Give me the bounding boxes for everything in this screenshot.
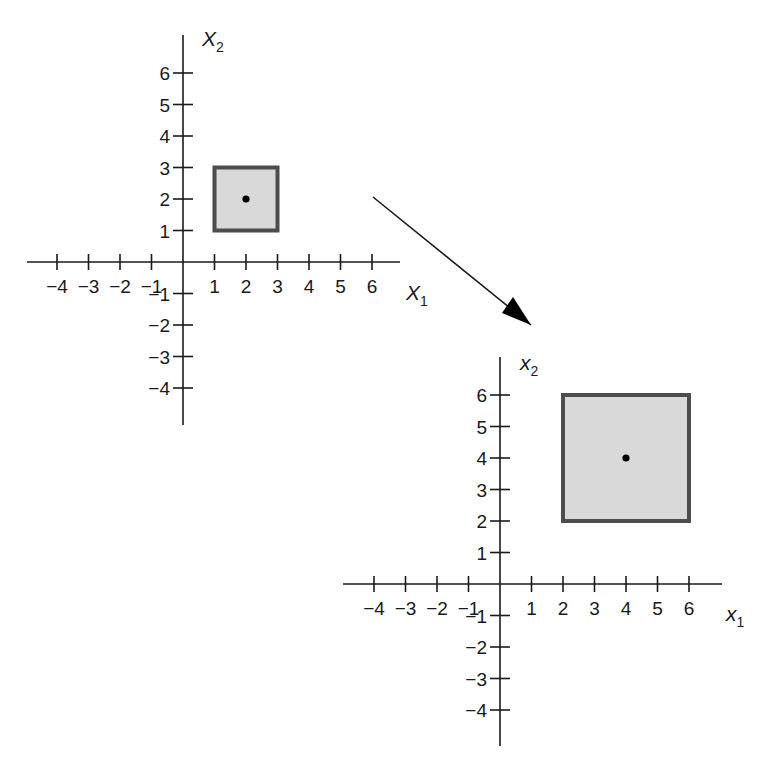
y-tick-label: 2: [476, 511, 487, 532]
y-tick-label: −4: [465, 700, 487, 721]
x-tick-label: 6: [367, 276, 378, 297]
arrowhead-icon: [502, 297, 531, 325]
y-tick-label: −2: [148, 315, 170, 336]
y-tick-label: 5: [476, 417, 487, 438]
y-axis-label: X2: [201, 27, 224, 55]
y-axis-label: x2: [519, 351, 539, 379]
x-tick-label: 3: [589, 598, 600, 619]
y-tick-label: 6: [159, 63, 170, 84]
x-tick-label: 2: [558, 598, 569, 619]
y-tick-label: −1: [465, 606, 487, 627]
y-tick-label: −4: [148, 378, 170, 399]
y-tick-label: −3: [148, 347, 170, 368]
x-tick-label: −4: [46, 276, 68, 297]
y-tick-label: 3: [476, 480, 487, 501]
x-tick-label: −2: [109, 276, 131, 297]
x-tick-label: −2: [426, 598, 448, 619]
x-tick-label: 3: [272, 276, 283, 297]
x-tick-label: −3: [78, 276, 100, 297]
x-tick-label: 4: [621, 598, 632, 619]
y-tick-label: 5: [159, 95, 170, 116]
y-tick-label: 1: [476, 543, 487, 564]
x-tick-label: 1: [209, 276, 220, 297]
center-point: [622, 454, 629, 461]
x-tick-label: 5: [652, 598, 663, 619]
x-tick-label: 6: [684, 598, 695, 619]
y-tick-label: 3: [159, 158, 170, 179]
y-tick-label: 4: [159, 126, 170, 147]
x-axis-label: x1: [725, 602, 745, 630]
x-tick-label: 2: [241, 276, 252, 297]
x-axis-label: X1: [405, 281, 428, 309]
y-tick-label: −2: [465, 637, 487, 658]
y-tick-label: 6: [476, 385, 487, 406]
y-tick-label: 4: [476, 448, 487, 469]
x-tick-label: 4: [304, 276, 315, 297]
left-plot: −4−3−2−1123456654321−1−2−3−4X1X2: [27, 27, 428, 425]
y-tick-label: −1: [148, 284, 170, 305]
x-tick-label: −3: [395, 598, 417, 619]
x-tick-label: −4: [363, 598, 385, 619]
y-tick-label: 1: [159, 221, 170, 242]
y-tick-label: −3: [465, 669, 487, 690]
x-tick-label: 5: [335, 276, 346, 297]
transformation-diagram: −4−3−2−1123456654321−1−2−3−4X1X2 −4−3−2−…: [0, 0, 771, 772]
y-tick-label: 2: [159, 189, 170, 210]
center-point: [242, 195, 249, 202]
right-plot: −4−3−2−1123456654321−1−2−3−4x1x2: [343, 351, 745, 746]
x-tick-label: 1: [526, 598, 537, 619]
